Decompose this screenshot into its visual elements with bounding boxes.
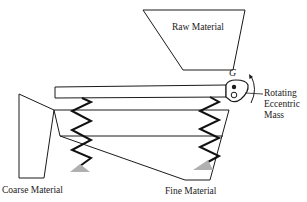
- coarse-material-label: Coarse Material: [2, 185, 63, 196]
- left-spring: [72, 98, 91, 166]
- left-support: [70, 164, 90, 172]
- g-label: G: [229, 67, 236, 78]
- top-beam: [55, 85, 226, 98]
- fine-material-label: Fine Material: [165, 186, 216, 197]
- rotating-label-3: Mass: [264, 110, 284, 121]
- eccentric-mass: [226, 80, 248, 102]
- fine-chute-slope: [60, 136, 185, 180]
- right-spring: [200, 97, 219, 162]
- rotation-arrow-icon: [251, 76, 255, 103]
- raw-material-hopper: [143, 10, 245, 70]
- eccentric-circle: [231, 92, 237, 98]
- rotating-label-1: Rotating: [264, 88, 297, 99]
- coarse-material-chute: [19, 94, 54, 178]
- vibrating-screen-diagram: [0, 0, 307, 202]
- rotating-label-2: Eccentric: [264, 99, 300, 110]
- leader-line: [245, 93, 263, 94]
- center-of-gravity-dot: [232, 85, 236, 89]
- raw-material-label: Raw Material: [172, 22, 224, 33]
- deck-left-post: [54, 110, 60, 136]
